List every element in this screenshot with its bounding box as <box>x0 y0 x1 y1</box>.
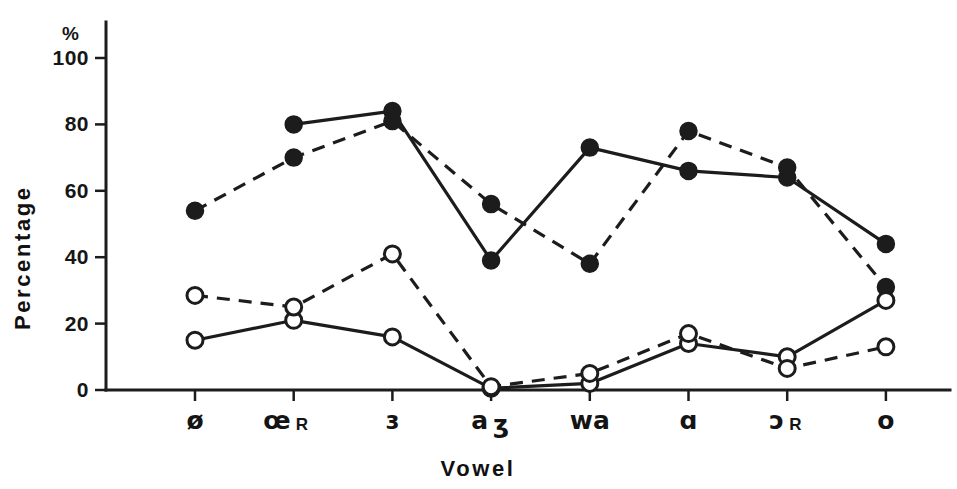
y-tick-label: 20 <box>65 312 89 335</box>
data-point-marker <box>878 292 894 308</box>
x-tick-label: ɜ <box>386 406 400 435</box>
data-point-marker <box>680 162 697 179</box>
y-tick-label: 80 <box>65 112 89 135</box>
data-point-marker <box>285 116 302 133</box>
series-layer <box>187 103 895 397</box>
y-axis-title: Percentage <box>10 185 35 330</box>
data-point-marker <box>779 360 795 376</box>
x-tick-label-group: ø <box>186 406 203 435</box>
data-point-marker <box>779 159 796 176</box>
data-point-marker <box>878 339 894 355</box>
x-tick-labels: øœRɜaʒwaɑɔRo <box>186 406 894 439</box>
x-tick-label-group: ɔR <box>769 406 801 435</box>
y-tick-label: 60 <box>65 179 89 202</box>
vowel-percentage-line-chart: Percentage % 020406080100 øœRɜaʒwaɑɔRo V… <box>0 0 957 489</box>
data-point-marker <box>384 113 401 130</box>
data-point-marker <box>187 332 203 348</box>
y-tick-label: 100 <box>52 46 89 69</box>
y-tick-label: 40 <box>65 245 89 268</box>
data-point-marker <box>187 287 203 303</box>
data-point-marker <box>877 235 894 252</box>
series-path <box>294 111 886 260</box>
x-tick-label: ø <box>186 406 203 435</box>
x-tick-label-modifier: ʒ <box>493 410 509 439</box>
y-axis-unit-label: % <box>62 23 79 44</box>
data-point-marker <box>681 326 697 342</box>
data-point-marker <box>483 196 500 213</box>
y-tick-label: 0 <box>77 378 89 401</box>
x-tick-label-group: ɑ <box>680 406 698 435</box>
data-point-marker <box>680 123 697 140</box>
data-point-marker <box>187 202 204 219</box>
data-point-marker <box>483 379 499 395</box>
y-axis-title-text: Percentage <box>10 185 35 330</box>
x-tick-label: wa <box>570 406 610 435</box>
axes-group <box>95 22 950 401</box>
data-point-marker <box>285 149 302 166</box>
x-tick-label-group: ɜ <box>386 406 400 435</box>
x-tick-label: ɑ <box>680 406 698 435</box>
x-axis-title-text: Vowel <box>441 456 516 481</box>
x-tick-label: o <box>877 406 894 435</box>
data-point-marker <box>286 299 302 315</box>
x-tick-label-group: œR <box>263 406 308 435</box>
x-tick-label-modifier: R <box>296 415 308 434</box>
data-point-marker <box>582 365 598 381</box>
x-tick-label: œ <box>263 406 290 435</box>
x-tick-label-modifier: R <box>789 415 801 434</box>
x-tick-label-group: aʒ <box>471 406 509 439</box>
x-tick-label: a <box>471 406 488 435</box>
y-tick-labels: 020406080100 <box>52 46 89 401</box>
data-point-marker <box>581 255 598 272</box>
data-point-marker <box>483 252 500 269</box>
data-point-marker <box>581 139 598 156</box>
data-point-marker <box>384 246 400 262</box>
data-point-marker <box>384 329 400 345</box>
chart-container: Percentage % 020406080100 øœRɜaʒwaɑɔRo V… <box>0 0 957 489</box>
x-tick-label: ɔ <box>769 406 784 435</box>
x-tick-label-group: o <box>877 406 894 435</box>
x-tick-label-group: wa <box>570 406 610 435</box>
